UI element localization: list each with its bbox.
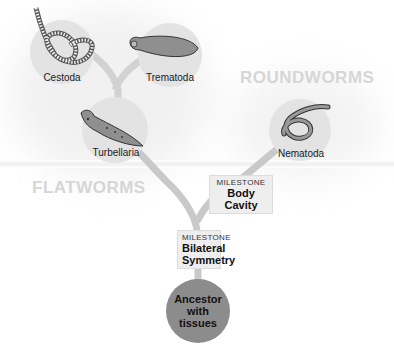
- flatworms-group-label: FLATWORMS: [32, 178, 146, 198]
- turbellaria-label: Turbellaria: [88, 147, 144, 158]
- roundworms-group-label: ROUNDWORMS: [240, 68, 374, 88]
- milestone-title: Bilateral Symmetry: [182, 242, 216, 266]
- milestone-body-cavity: MILESTONE Body Cavity: [209, 175, 273, 214]
- milestone-bilateral-symmetry: MILESTONE Bilateral Symmetry: [177, 230, 221, 269]
- ancestor-node: Ancestor with tissues: [166, 279, 230, 343]
- cestoda-label: Cestoda: [40, 72, 84, 83]
- ancestor-label: Ancestor with tissues: [173, 293, 223, 329]
- milestone-kicker: MILESTONE: [182, 233, 216, 242]
- milestone-kicker: MILESTONE: [214, 178, 268, 187]
- trematoda-label: Trematoda: [142, 72, 198, 83]
- milestone-title: Body Cavity: [214, 187, 268, 211]
- nematoda-label: Nematoda: [275, 148, 327, 159]
